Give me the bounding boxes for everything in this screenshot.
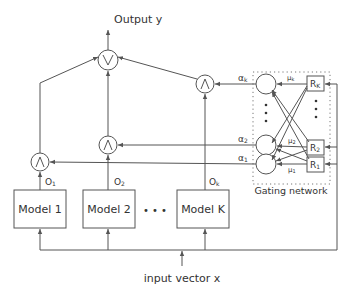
output-ok: Ok — [209, 177, 220, 187]
alpha-k-label: αk — [238, 73, 248, 83]
gate-node-k — [196, 75, 214, 93]
model-2-box: Model 2 — [83, 190, 135, 228]
combiner-node — [98, 50, 118, 70]
gating-network-label: Gating network — [254, 185, 328, 196]
svg-text:Model K: Model K — [181, 203, 226, 216]
svg-text:Model 2: Model 2 — [87, 203, 131, 216]
gating-cross-connections — [272, 86, 309, 161]
gate-node-1 — [31, 153, 49, 171]
model-k-box: Model K — [177, 190, 229, 228]
regressor-2: R2 — [307, 140, 324, 155]
mu-k-label: μk — [287, 74, 294, 82]
gatek-to-combiner — [118, 57, 197, 79]
output-o1: O1 — [45, 177, 56, 187]
moe-diagram: Output y Model 1 Model 2 Model K • • • O… — [0, 0, 348, 298]
mu-1-label: μ1 — [288, 166, 296, 174]
gating-neuron-ellipsis — [265, 100, 318, 123]
alpha-1-label: α1 — [238, 153, 248, 163]
input-label: input vector x — [144, 272, 221, 285]
mu-2-label: μ2 — [288, 137, 296, 145]
gate1-to-combiner — [40, 57, 98, 153]
models-ellipsis: • • • — [143, 205, 167, 216]
alpha-2-label: α2 — [238, 134, 248, 144]
regressor-k: RK — [307, 76, 324, 91]
output-o2: O2 — [114, 177, 125, 187]
regressor-1: R1 — [307, 157, 324, 172]
model-1-box: Model 1 — [14, 190, 66, 228]
gate-node-2 — [99, 136, 117, 154]
svg-text:Model 1: Model 1 — [18, 203, 62, 216]
gating-neuron-2 — [256, 135, 276, 155]
output-label: Output y — [114, 13, 163, 26]
alpha-1-line — [50, 162, 256, 164]
